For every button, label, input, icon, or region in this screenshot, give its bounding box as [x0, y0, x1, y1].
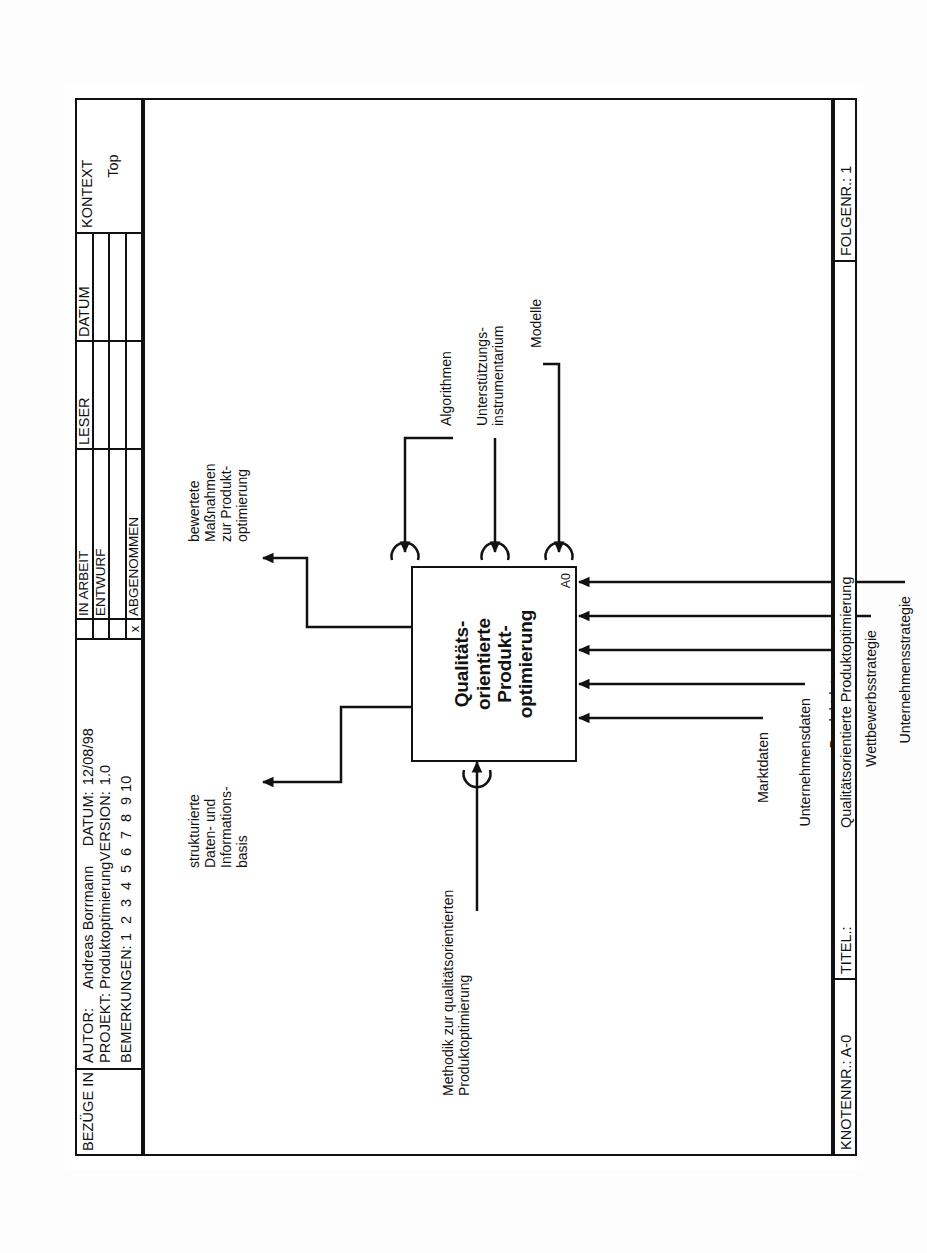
bemerkung-number[interactable]: 3: [118, 894, 134, 911]
bemerkungen-numbers: 12345678910: [118, 775, 134, 945]
status-checkbox[interactable]: [93, 618, 108, 638]
bemerkung-number[interactable]: 10: [118, 775, 134, 792]
header-cell-leser: LESER: [77, 340, 141, 448]
status-row[interactable]: ENTWURF: [93, 450, 110, 638]
mechanism-label-modelle: Modelle: [529, 298, 545, 347]
bemerkung-number[interactable]: 7: [118, 826, 134, 843]
footer-cell-titel: TITEL.: Qualitätsorientierte Produktopti…: [835, 260, 855, 978]
titel-key: TITEL.:: [838, 926, 854, 974]
mechanism-join: [543, 364, 559, 438]
form-footer: KNOTENNR.: A-0 TITEL.: Qualitätsorientie…: [833, 98, 857, 1156]
control-label-methodik: Methodik zur qualitätsorientiertenProduk…: [441, 889, 473, 1095]
bemerkung-number[interactable]: 8: [118, 809, 134, 826]
status-row[interactable]: IN ARBEIT: [77, 450, 94, 638]
datum-stack: DATUM: [77, 234, 141, 340]
titel-value: Qualitätsorientierte Produktoptimierung: [835, 576, 857, 827]
datum-row: DATUM: 12/08/98: [80, 728, 97, 861]
status-row[interactable]: xABGENOMMEN: [126, 450, 141, 638]
bemerkung-number[interactable]: 9: [118, 792, 134, 809]
bemerkung-number[interactable]: 2: [118, 911, 134, 928]
kontext-value: Top: [105, 100, 121, 232]
header-cell-autor-projekt: AUTOR: Andreas Borrmann PROJEKT: Produkt…: [77, 638, 141, 1068]
status-label: ENTWURF: [93, 450, 108, 618]
header-cell-kontext: KONTEXT Top: [77, 100, 141, 232]
leser-row[interactable]: [110, 342, 126, 448]
status-checklist[interactable]: IN ARBEITENTWURFxABGENOMMEN: [77, 450, 141, 638]
activity-box-title: Qualitäts-orientierteProdukt-optimierung: [451, 609, 536, 718]
status-label: ABGENOMMEN: [126, 450, 141, 618]
bemerkung-number[interactable]: 5: [118, 860, 134, 877]
diagram-frame: Qualitäts-orientierteProdukt-optimierung…: [143, 98, 833, 1156]
leser-row[interactable]: [126, 342, 140, 448]
autor-value: Andreas Borrmann: [80, 865, 97, 988]
knoten-key: KNOTENNR.:: [838, 1060, 854, 1149]
datum-key: DATUM:: [80, 785, 97, 861]
rotated-drawing-stage: BEZÜGE IN AUTOR: Andreas Borrmann PROJEK…: [65, 84, 863, 1170]
output-arrow-struktur: [263, 707, 411, 782]
header-cell-status: IN ARBEITENTWURFxABGENOMMEN: [77, 448, 141, 638]
input-label-unternehmensstrategie: Unternehmensstrategie: [897, 596, 913, 954]
datum-col-label: DATUM: [77, 234, 94, 340]
diagram-canvas: Qualitäts-orientierteProdukt-optimierung…: [145, 100, 831, 1154]
mechanism-line-algorithmen: [405, 438, 453, 552]
header-cell-datum: DATUM: [77, 232, 141, 340]
datum-version-group: DATUM: 12/08/98 VERSION: 1.0: [80, 728, 114, 861]
activity-box-a0[interactable]: Qualitäts-orientierteProdukt-optimierung…: [411, 566, 577, 762]
leser-stack: LESER: [77, 342, 141, 448]
mechanism-label-unterstuetzungsinstrumentarium: Unterstützungs-instrumentarium: [475, 325, 507, 425]
leser-row[interactable]: [94, 342, 110, 448]
projekt-value: Produktoptimierung: [97, 861, 114, 989]
leser-label: LESER: [77, 342, 94, 448]
status-label: IN ARBEIT: [77, 450, 92, 618]
datum-row-entry[interactable]: [94, 234, 110, 340]
folge-value: 1: [838, 165, 854, 173]
version-key: VERSION:: [97, 785, 114, 861]
footer-cell-folgenr: FOLGENR.: 1: [835, 100, 855, 260]
bezuege-label: BEZÜGE IN: [80, 1071, 97, 1150]
version-value: 1.0: [97, 764, 114, 784]
datum-row-entry[interactable]: [110, 234, 126, 340]
autor-key: AUTOR:: [80, 989, 97, 1063]
header-cell-bezuege: BEZÜGE IN: [77, 1068, 141, 1154]
projekt-key: PROJEKT:: [97, 989, 114, 1063]
bemerkungen-label: BEMERKUNGEN:: [118, 945, 134, 1063]
input-label-marktdaten: Marktdaten: [755, 732, 771, 954]
bemerkungen-row: BEMERKUNGEN:12345678910: [118, 775, 134, 1063]
output-label-bewertete-massnahmen: bewerteteMaßnahmenzur Produkt-optimierun…: [187, 463, 251, 542]
folge-key: FOLGENR.:: [838, 177, 854, 255]
status-checkbox[interactable]: [110, 618, 125, 638]
bemerkung-number[interactable]: 1: [118, 928, 134, 945]
kontext-label: KONTEXT: [79, 159, 95, 227]
datum-row-entry[interactable]: [126, 234, 140, 340]
datum-value: 12/08/98: [80, 728, 97, 785]
knoten-value: A-0: [838, 1034, 854, 1057]
bemerkung-number[interactable]: 4: [118, 877, 134, 894]
input-label-wettbewerbsstrategie: Wettbewerbsstrategie: [863, 630, 879, 954]
activity-box-number: A0: [559, 573, 573, 588]
output-arrow-massnahmen: [263, 558, 411, 627]
mechanism-label-algorithmen: Algorithmen: [439, 351, 455, 426]
version-row: VERSION: 1.0: [97, 728, 114, 861]
input-label-unternehmensdaten: Unternehmensdaten: [797, 698, 813, 954]
bemerkung-number[interactable]: 6: [118, 843, 134, 860]
status-label: [110, 450, 125, 618]
idef0-sheet: BEZÜGE IN AUTOR: Andreas Borrmann PROJEK…: [65, 84, 863, 1170]
status-checkbox[interactable]: x: [126, 618, 141, 638]
status-checkbox[interactable]: [77, 618, 92, 638]
status-row[interactable]: [110, 450, 127, 638]
form-header: BEZÜGE IN AUTOR: Andreas Borrmann PROJEK…: [75, 98, 143, 1156]
footer-cell-knotennr: KNOTENNR.: A-0: [835, 978, 855, 1154]
output-label-strukturierte-basis: strukturierteDaten- undInformations-basi…: [187, 786, 251, 868]
